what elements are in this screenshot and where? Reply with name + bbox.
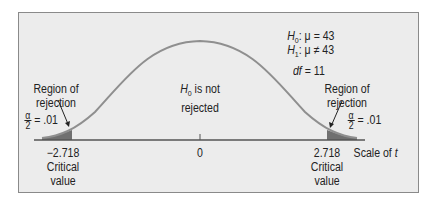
df-value: = 11 (302, 64, 325, 78)
right-alpha-label: α2 = .01 (348, 111, 388, 130)
center-line1: is not (192, 82, 220, 96)
left-critical-label: −2.718 Critical value (41, 146, 85, 188)
df-label: df = 11 (293, 64, 337, 78)
right-region-line2: rejection (321, 96, 374, 110)
center-line2: rejected (174, 101, 227, 115)
axis-label-text: Scale of (354, 146, 395, 160)
right-region-label: Region of rejection (321, 82, 374, 110)
axis-label: Scale of t (354, 146, 407, 160)
h0-symbol: H (287, 29, 295, 43)
right-arrowhead (329, 122, 334, 128)
left-alpha-label: α2 = .01 (24, 111, 59, 130)
center-h-symbol: H (180, 82, 188, 96)
h1-label: H1: μ ≠ 43 (287, 43, 349, 62)
alpha-fraction-right: α2 (348, 111, 355, 130)
zero-label: 0 (191, 146, 209, 160)
left-critical-line2: Critical (41, 160, 85, 174)
right-critical-line3: value (305, 174, 349, 188)
alpha-value-left: = .01 (31, 113, 58, 127)
alpha-value-right: = .01 (355, 113, 382, 127)
h0-text: : μ = 43 (299, 29, 335, 43)
zero-value: 0 (191, 146, 209, 160)
left-region-line2: rejection (30, 96, 83, 110)
left-critical-line3: value (41, 174, 85, 188)
h1-symbol: H (287, 43, 295, 57)
left-region-label: Region of rejection (30, 82, 83, 110)
axis-label-var: t (395, 146, 398, 160)
left-critical-value: −2.718 (41, 146, 85, 160)
df-symbol: df (293, 64, 302, 78)
center-label: H0 is not rejected (174, 82, 227, 115)
right-critical-label: 2.718 Critical value (305, 146, 349, 188)
left-region-line1: Region of (30, 82, 83, 96)
alpha-fraction-left: α2 (24, 111, 31, 130)
right-critical-value: 2.718 (305, 146, 349, 160)
h1-text: : μ ≠ 43 (299, 43, 334, 57)
right-region-line1: Region of (321, 82, 374, 96)
right-critical-line2: Critical (305, 160, 349, 174)
